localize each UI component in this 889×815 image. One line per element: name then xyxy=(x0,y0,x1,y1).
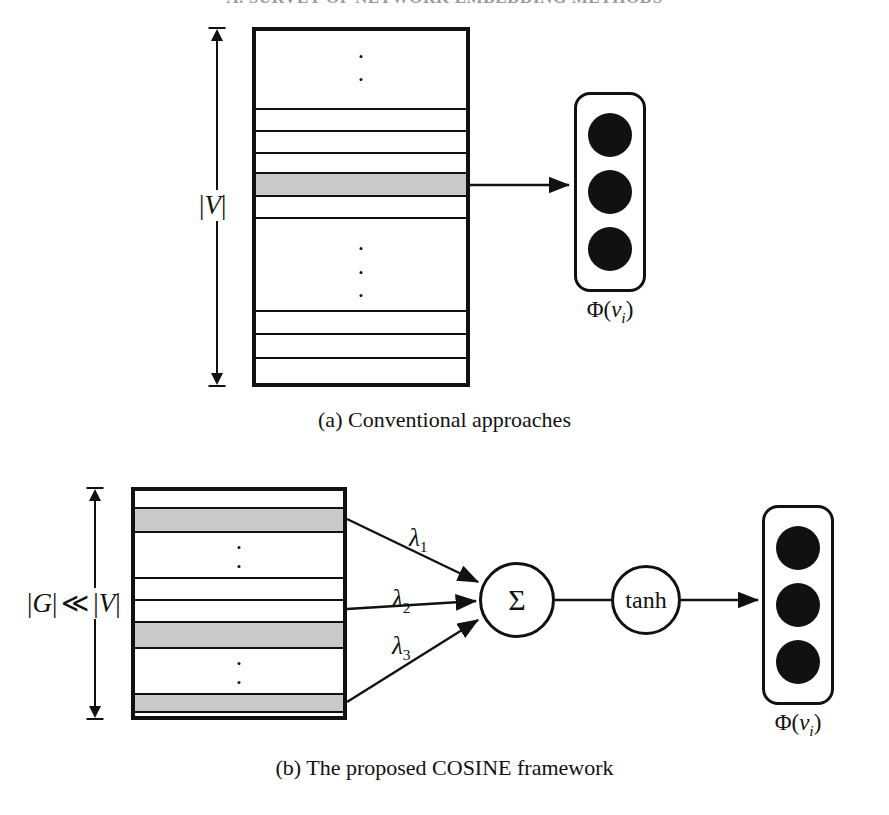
lookup-table-full-vocabulary[interactable] xyxy=(252,27,470,387)
table-row xyxy=(135,507,343,509)
embedding-dim-dot xyxy=(588,170,632,214)
phi-close: ) xyxy=(814,710,822,735)
bar-right: | xyxy=(221,190,226,220)
embedding-label-b: Φ(vi) xyxy=(762,711,834,738)
table-row xyxy=(256,195,466,197)
vertical-ellipsis-top xyxy=(238,546,241,568)
phi-open: Φ( xyxy=(587,297,611,322)
v-symbol: V xyxy=(204,190,221,220)
lambda-2-label: λ2 xyxy=(392,586,411,616)
embedding-dim-dot xyxy=(588,113,632,157)
node-variable: v xyxy=(611,297,621,322)
caption-panel-b: (b) The proposed COSINE framework xyxy=(0,755,889,781)
table-row-highlighted[interactable] xyxy=(135,508,343,532)
v-symbol: V xyxy=(99,588,116,618)
table-row xyxy=(256,130,466,132)
dimension-label-v: |V| xyxy=(196,190,229,221)
running-header: A. SURVEY OF NETWORK EMBEDDING METHODS xyxy=(0,0,889,4)
embedding-dim-dot xyxy=(776,640,820,684)
dimension-label-g-ll-v: |G|≪|V| xyxy=(24,588,124,619)
table-row-highlighted[interactable] xyxy=(135,694,343,712)
table-row xyxy=(135,577,343,579)
table-row xyxy=(256,217,466,219)
table-row xyxy=(256,357,466,359)
table-row xyxy=(135,621,343,623)
phi-close: ) xyxy=(626,297,634,322)
lambda-symbol: λ xyxy=(392,585,403,612)
node-variable: v xyxy=(799,710,809,735)
v-bar-right: | xyxy=(115,588,120,618)
tanh-label: tanh xyxy=(625,588,666,612)
lambda-subscript: 1 xyxy=(420,538,428,555)
embedding-label-a: Φ(vi) xyxy=(574,298,646,325)
g-symbol: G xyxy=(32,588,52,618)
caption-panel-a: (a) Conventional approaches xyxy=(0,407,889,433)
lambda-subscript: 3 xyxy=(403,646,411,663)
embedding-vector-box-b[interactable] xyxy=(762,505,834,705)
arrow-lambda-3 xyxy=(347,620,478,702)
vertical-ellipsis-top xyxy=(360,55,363,81)
lambda-symbol: λ xyxy=(409,524,420,551)
table-row xyxy=(256,333,466,335)
phi-open: Φ( xyxy=(775,710,799,735)
lookup-table-group-basis[interactable] xyxy=(131,487,347,720)
table-row xyxy=(256,152,466,154)
figure-root: A. SURVEY OF NETWORK EMBEDDING METHODS |… xyxy=(0,0,889,815)
lambda-3-label: λ3 xyxy=(392,633,411,663)
table-row xyxy=(135,599,343,601)
table-row xyxy=(135,711,343,713)
table-row-highlighted[interactable] xyxy=(135,622,343,648)
embedding-dim-dot xyxy=(776,583,820,627)
table-row xyxy=(256,172,466,174)
sum-symbol: Σ xyxy=(508,585,525,615)
embedding-dim-dot xyxy=(588,227,632,271)
vertical-ellipsis-bottom xyxy=(238,662,241,684)
activation-node-tanh[interactable]: tanh xyxy=(611,565,681,635)
table-row xyxy=(256,108,466,110)
table-row xyxy=(135,531,343,533)
sum-node[interactable]: Σ xyxy=(479,562,555,638)
embedding-dim-dot xyxy=(776,526,820,570)
much-less-than-symbol: ≪ xyxy=(57,588,93,618)
lambda-subscript: 2 xyxy=(403,599,411,616)
table-row xyxy=(135,693,343,695)
table-row-highlighted[interactable] xyxy=(256,174,466,197)
arrow-lambda-2 xyxy=(347,601,476,609)
lambda-symbol: λ xyxy=(392,632,403,659)
lambda-1-label: λ1 xyxy=(409,525,428,555)
embedding-vector-box-a[interactable] xyxy=(574,92,646,292)
table-row xyxy=(256,310,466,312)
vertical-ellipsis-bottom xyxy=(360,247,363,297)
table-row xyxy=(135,647,343,649)
